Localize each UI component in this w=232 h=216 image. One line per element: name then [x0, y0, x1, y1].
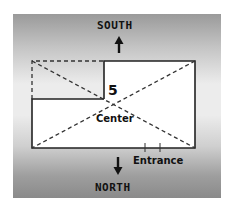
entrance-label: Entrance — [133, 155, 183, 166]
arrow-down-icon — [114, 157, 123, 175]
room-number: 5 — [108, 82, 118, 98]
dashed-extension — [32, 61, 104, 99]
south-label: SOUTH — [97, 19, 133, 32]
center-label: Center — [96, 113, 134, 124]
arrow-up-icon — [115, 36, 124, 53]
north-label: NORTH — [95, 181, 131, 194]
